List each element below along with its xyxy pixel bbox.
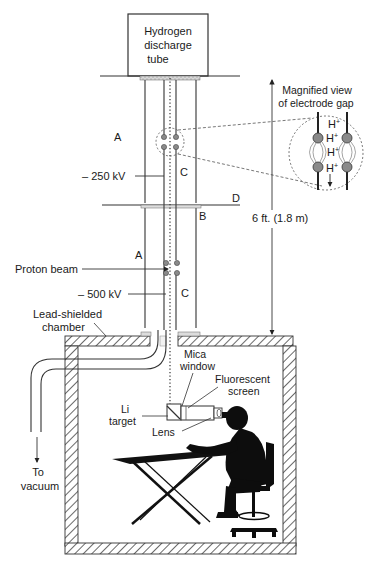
- label-d: D: [232, 192, 240, 204]
- chamber-label-2: chamber: [42, 321, 85, 333]
- fluorescent-label-2: screen: [228, 385, 260, 397]
- lens-label: Lens: [152, 426, 175, 438]
- mica-label-2: window: [179, 360, 215, 372]
- magnified-title-2: of electrode gap: [278, 97, 353, 109]
- source-label-1: Hydrogen: [144, 25, 192, 37]
- proton-beam-label: Proton beam: [15, 263, 78, 275]
- dimension-label: 6 ft. (1.8 m): [252, 212, 308, 224]
- vacuum-label-2: vacuum: [21, 480, 60, 492]
- ion-label-1: H+: [328, 118, 340, 130]
- height-dimension: 6 ft. (1.8 m): [252, 80, 308, 334]
- magnified-electrode-gap: Magnified view of electrode gap H+ H+ H+…: [278, 84, 363, 190]
- li-label-1: Li: [121, 403, 129, 415]
- mica-label-1: Mica: [184, 348, 206, 360]
- accelerator-column: [102, 78, 240, 405]
- vacuum-label-1: To: [32, 466, 44, 478]
- table: [112, 449, 230, 524]
- ion-label-4: H+: [326, 162, 338, 174]
- accelerator-diagram: Hydrogen discharge tube: [0, 0, 386, 561]
- label-c-upper: C: [180, 166, 188, 178]
- fluorescent-label-1: Fluorescent: [215, 373, 270, 385]
- magnified-title-1: Magnified view: [282, 84, 352, 96]
- label-a-lower: A: [135, 249, 143, 261]
- label-c-lower: C: [181, 287, 189, 299]
- label-b: B: [199, 210, 206, 222]
- ion-label-3: H+: [327, 146, 339, 158]
- detector-assembly: [167, 404, 222, 420]
- hydrogen-discharge-tube: Hydrogen discharge tube: [100, 14, 240, 80]
- li-label-2: target: [109, 415, 136, 427]
- voltage-lower: – 500 kV: [78, 288, 122, 300]
- chamber-label-1: Lead-shielded: [33, 308, 102, 320]
- source-label-2: discharge: [144, 39, 192, 51]
- label-a-upper: A: [114, 131, 122, 143]
- voltage-upper: – 250 kV: [82, 170, 126, 182]
- ion-label-2: H+: [326, 132, 338, 144]
- source-label-3: tube: [147, 53, 168, 65]
